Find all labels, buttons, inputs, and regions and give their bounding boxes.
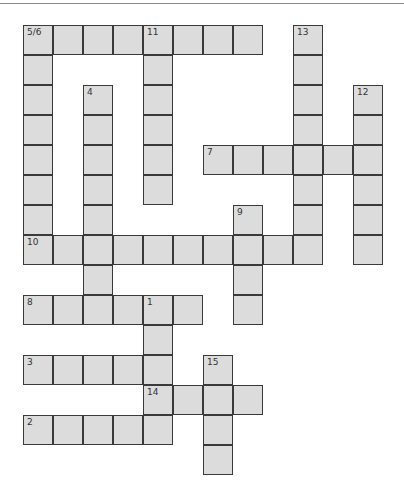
clue-number: 2 [27,418,33,427]
grid-cell[interactable] [353,175,383,205]
grid-cell[interactable]: 1 [143,295,173,325]
grid-cell[interactable] [23,175,53,205]
grid-cell[interactable]: 10 [23,235,53,265]
grid-cell[interactable] [143,325,173,355]
grid-cell[interactable] [203,415,233,445]
grid-cell[interactable] [203,235,233,265]
grid-cell[interactable] [83,295,113,325]
clue-number: 13 [297,28,308,37]
grid-cell[interactable] [113,415,143,445]
grid-cell[interactable] [23,55,53,85]
grid-cell[interactable] [83,145,113,175]
grid-cell[interactable] [143,85,173,115]
grid-cell[interactable] [83,25,113,55]
grid-cell[interactable] [23,115,53,145]
grid-cell[interactable] [53,295,83,325]
grid-cell[interactable] [143,55,173,85]
grid-cell[interactable] [53,355,83,385]
clue-number: 15 [207,358,218,367]
grid-cell[interactable] [233,235,263,265]
clue-number: 14 [147,388,158,397]
clue-number: 10 [27,238,38,247]
top-rule [0,3,404,4]
grid-cell[interactable] [203,445,233,475]
grid-cell[interactable] [353,235,383,265]
grid-cell[interactable]: 7 [203,145,233,175]
grid-cell[interactable] [293,205,323,235]
grid-cell[interactable] [233,25,263,55]
grid-cell[interactable] [233,295,263,325]
grid-cell[interactable] [143,235,173,265]
grid-cell[interactable] [23,85,53,115]
grid-cell[interactable] [173,385,203,415]
grid-cell[interactable] [173,295,203,325]
grid-cell[interactable]: 5/6 [23,25,53,55]
grid-cell[interactable] [173,235,203,265]
clue-number: 9 [237,208,243,217]
grid-cell[interactable]: 13 [293,25,323,55]
grid-cell[interactable] [113,235,143,265]
clue-number: 8 [27,298,33,307]
grid-cell[interactable] [143,145,173,175]
grid-cell[interactable] [143,175,173,205]
grid-cell[interactable]: 11 [143,25,173,55]
grid-cell[interactable] [353,205,383,235]
grid-cell[interactable] [83,175,113,205]
grid-cell[interactable] [143,415,173,445]
grid-cell[interactable] [203,385,233,415]
grid-cell[interactable] [323,145,353,175]
grid-cell[interactable]: 8 [23,295,53,325]
clue-number: 7 [207,148,213,157]
grid-cell[interactable] [263,235,293,265]
grid-cell[interactable] [233,265,263,295]
grid-cell[interactable]: 15 [203,355,233,385]
grid-cell[interactable] [113,295,143,325]
grid-cell[interactable] [263,145,293,175]
clue-number: 3 [27,358,33,367]
clue-number: 5/6 [27,28,41,37]
grid-cell[interactable] [143,115,173,145]
clue-number: 11 [147,28,158,37]
grid-cell[interactable] [83,115,113,145]
grid-cell[interactable] [293,115,323,145]
grid-cell[interactable] [173,25,203,55]
grid-cell[interactable] [83,265,113,295]
grid-cell[interactable] [83,205,113,235]
clue-number: 1 [147,298,153,307]
grid-cell[interactable]: 4 [83,85,113,115]
grid-cell[interactable] [233,145,263,175]
grid-cell[interactable] [143,355,173,385]
grid-cell[interactable] [83,355,113,385]
clue-number: 12 [357,88,368,97]
clue-number: 4 [87,88,93,97]
grid-cell[interactable] [83,235,113,265]
grid-cell[interactable] [293,235,323,265]
grid-cell[interactable] [293,145,323,175]
grid-cell[interactable]: 14 [143,385,173,415]
grid-cell[interactable] [233,385,263,415]
grid-cell[interactable]: 3 [23,355,53,385]
grid-cell[interactable] [23,145,53,175]
grid-cell[interactable]: 12 [353,85,383,115]
grid-cell[interactable] [353,145,383,175]
grid-cell[interactable] [353,115,383,145]
grid-cell[interactable] [83,415,113,445]
grid-cell[interactable] [293,85,323,115]
grid-cell[interactable] [53,25,83,55]
grid-cell[interactable] [293,55,323,85]
grid-cell[interactable] [53,235,83,265]
grid-cell[interactable]: 9 [233,205,263,235]
grid-cell[interactable]: 2 [23,415,53,445]
grid-cell[interactable] [293,175,323,205]
grid-cell[interactable] [23,205,53,235]
grid-cell[interactable] [113,355,143,385]
grid-cell[interactable] [203,25,233,55]
grid-cell[interactable] [53,415,83,445]
grid-cell[interactable] [113,25,143,55]
